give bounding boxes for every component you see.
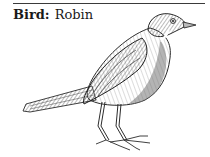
robin-illustration [0,0,210,157]
legs [98,102,127,140]
bird-card: Bird:Robin [0,0,210,157]
